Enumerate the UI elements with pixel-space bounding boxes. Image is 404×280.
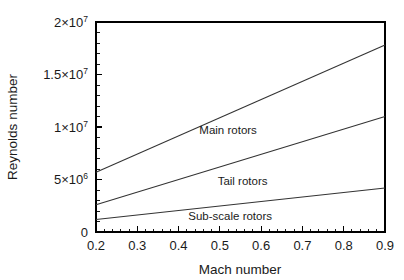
x-tick-label: 0.5 xyxy=(211,238,229,253)
series-label-sub-scale-rotors: Sub-scale rotors xyxy=(188,210,272,222)
y-tick-label: 2×107 xyxy=(54,14,88,30)
y-tick-label: 5×106 xyxy=(54,171,88,187)
x-tick-label: 0.7 xyxy=(293,238,311,253)
y-tick-label: 1.5×107 xyxy=(43,66,88,82)
chart-svg: Main rotorsTail rotorsSub-scale rotors 0… xyxy=(0,0,404,280)
x-tick-label: 0.2 xyxy=(87,238,105,253)
x-tick-label: 0.8 xyxy=(335,238,353,253)
x-tick-label: 0.9 xyxy=(376,238,394,253)
y-axis-title: Reynolds number xyxy=(5,74,20,180)
x-axis-title: Mach number xyxy=(199,262,282,277)
series-label-tail-rotors: Tail rotors xyxy=(218,175,268,187)
x-tick-label: 0.4 xyxy=(170,238,188,253)
y-tick-label: 1×107 xyxy=(54,119,88,135)
reynolds-vs-mach-chart: Main rotorsTail rotorsSub-scale rotors 0… xyxy=(0,0,404,280)
x-tick-label: 0.6 xyxy=(252,238,270,253)
series-label-main-rotors: Main rotors xyxy=(199,124,257,136)
x-tick-label: 0.3 xyxy=(128,238,146,253)
